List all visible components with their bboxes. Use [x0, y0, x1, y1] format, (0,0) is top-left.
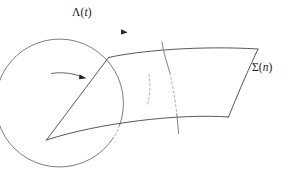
sigma-paren-close: ) [269, 61, 273, 73]
label-sigma-of-n: Σ(n) [252, 62, 273, 74]
figure-background [0, 0, 291, 176]
label-lambda-of-t: Λ(t) [72, 7, 92, 19]
figure-container: Λ(t) Σ(n) [0, 0, 291, 176]
lambda-paren-close: ) [88, 6, 92, 18]
figure-canvas [0, 0, 291, 176]
sigma-symbol: Σ [252, 61, 259, 73]
